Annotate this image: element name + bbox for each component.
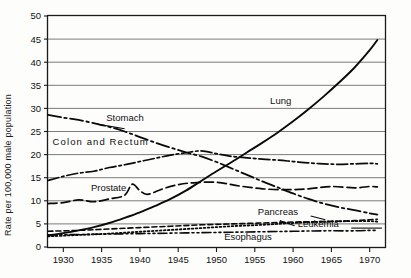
y-tick-label: 30: [30, 103, 41, 114]
lung-label: Lung: [270, 95, 291, 106]
x-tick-label: 1935: [91, 254, 112, 265]
x-tick-label: 1945: [168, 254, 189, 265]
y-tick-label: 45: [30, 34, 41, 45]
x-tick-label: 1950: [206, 254, 227, 265]
x-tick-label: 1960: [283, 254, 304, 265]
y-tick-label: 20: [30, 149, 41, 160]
x-tick-label: 1970: [359, 254, 380, 265]
y-axis-title: Rate per 100,000 male population: [3, 94, 13, 236]
y-tick-label: 40: [30, 57, 41, 68]
x-tick-label: 1955: [244, 254, 265, 265]
y-tick-label: 0: [36, 241, 41, 252]
y-tick-label: 10: [30, 195, 41, 206]
y-tick-label: 15: [30, 172, 41, 183]
y-tick-label: 35: [30, 80, 41, 91]
stomach-label: Stomach: [106, 112, 144, 123]
chart-figure: 05101520253035404550 1930193519401945195…: [0, 0, 411, 278]
x-axis-tick-labels: 193019351940194519501955196019651970: [53, 254, 381, 265]
colon-label: Colon and Rectum: [53, 136, 149, 147]
x-tick-label: 1930: [53, 254, 74, 265]
x-tick-label: 1940: [129, 254, 150, 265]
leukemia-label: Leukemia: [298, 218, 340, 229]
pancreas-label: Pancreas: [258, 206, 298, 217]
y-tick-label: 50: [30, 10, 41, 21]
cancer-death-rate-line-chart: 05101520253035404550 1930193519401945195…: [0, 0, 411, 278]
prostate-label: Prostate: [91, 182, 126, 193]
y-tick-label: 5: [36, 218, 41, 229]
x-tick-label: 1965: [321, 254, 342, 265]
y-tick-label: 25: [30, 126, 41, 137]
esophagus-label: Esophagus: [224, 231, 272, 242]
